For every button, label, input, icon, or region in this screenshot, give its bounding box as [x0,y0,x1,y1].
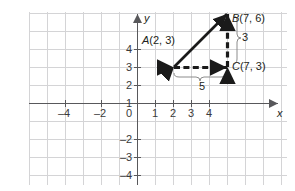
segment-ab [174,14,227,67]
point-label-c: C(7, 3) [232,61,266,72]
point-coords-b: (7, 6) [239,12,265,24]
y-tick-label: 4 [126,44,132,55]
point-label-a: A(2, 3) [142,35,175,46]
x-tick-label: 1 [152,108,158,119]
y-tick-label: 3 [126,62,132,73]
x-tick-label: –2 [94,108,106,119]
y-tick-label: –2 [120,134,132,145]
y-tick-label: –3 [120,152,132,163]
x-tick-label-origin: 0 [126,108,132,119]
brace-label-5: 5 [199,81,205,92]
y-tick-label: 2 [126,80,132,91]
x-tick-label: 2 [170,108,176,119]
point-coords-a: (2, 3) [149,34,175,46]
x-tick-label: 3 [188,108,194,119]
brace-marks [174,16,241,81]
triangle-abc [174,14,228,68]
point-label-b: B(7, 6) [232,13,265,24]
y-axis-label: y [144,13,150,24]
brace-label-3: 3 [242,32,248,43]
point-coords-c: (7, 3) [240,60,266,72]
coordinate-plane-canvas [0,0,295,191]
y-tick-label: –4 [120,170,132,181]
coordinate-plane-figure: –4 –2 0 1 2 3 4 4 3 2 1 –2 –3 –4 y x A(2… [0,0,295,191]
y-tick-label: 1 [126,98,132,109]
x-tick-label: 4 [206,108,212,119]
x-axis-label: x [277,108,283,119]
x-tick-label: –4 [58,108,70,119]
point-letter-c: C [232,60,240,72]
